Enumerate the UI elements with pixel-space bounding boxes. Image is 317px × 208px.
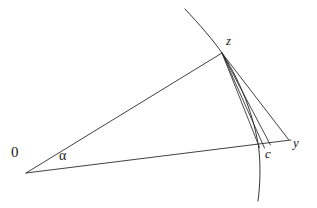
label-point-y: y <box>293 136 299 149</box>
label-origin: 0 <box>11 145 19 160</box>
chord-z-to-c <box>222 53 260 148</box>
geometry-figure: 0 α z y c <box>0 0 317 208</box>
label-angle-alpha: α <box>59 149 66 163</box>
chord-z-to-near-c-outer <box>222 53 271 145</box>
geodesic-arc <box>185 9 260 201</box>
geometry-canvas <box>0 0 317 208</box>
ray-origin-to-z <box>26 53 222 173</box>
label-point-z: z <box>226 34 231 47</box>
label-point-c: c <box>265 147 271 160</box>
